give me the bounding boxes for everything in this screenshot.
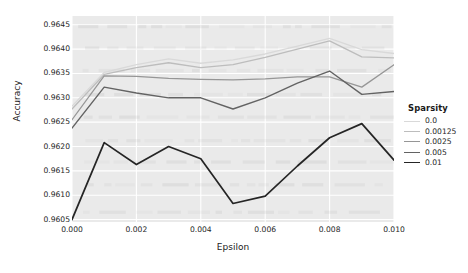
x-tick-label: 0.008 (300, 226, 360, 234)
x-tick-label: 0.000 (42, 226, 102, 234)
legend: Sparsity 0.00.001250.00250.0050.01 (404, 103, 468, 168)
legend-line-icon (404, 131, 420, 132)
x-tick-label: 0.004 (171, 226, 231, 234)
legend-item-label: 0.00125 (425, 128, 456, 136)
legend-item-label: 0.005 (425, 149, 447, 157)
x-tick-label: 0.002 (106, 226, 166, 234)
legend-line-icon (404, 141, 420, 142)
legend-item: 0.0025 (404, 137, 468, 147)
legend-line-icon (404, 152, 420, 153)
y-axis-label: Accuracy (12, 51, 22, 151)
legend-title: Sparsity (408, 103, 468, 113)
y-tick-label: 0.9605 (10, 216, 70, 224)
x-axis-label: Epsilon (72, 242, 394, 252)
plot-area (72, 16, 394, 222)
legend-item-label: 0.0025 (425, 138, 452, 146)
y-tick-label: 0.9645 (10, 21, 70, 29)
legend-item: 0.00125 (404, 126, 468, 136)
legend-item-label: 0.01 (425, 159, 442, 167)
legend-item: 0.01 (404, 158, 468, 168)
legend-item-label: 0.0 (425, 117, 437, 125)
legend-line-icon (404, 121, 420, 122)
legend-item: 0.005 (404, 147, 468, 157)
legend-line-icon (404, 162, 420, 163)
legend-entries: 0.00.001250.00250.0050.01 (404, 116, 468, 168)
x-tick-label: 0.010 (364, 226, 424, 234)
y-tick-label: 0.9610 (10, 191, 70, 199)
x-tick-label: 0.006 (235, 226, 295, 234)
legend-item: 0.0 (404, 116, 468, 126)
y-tick-label: 0.9615 (10, 167, 70, 175)
series-lines (72, 16, 394, 222)
line-chart-figure: 0.96050.96100.96150.96200.96250.96300.96… (0, 0, 468, 273)
